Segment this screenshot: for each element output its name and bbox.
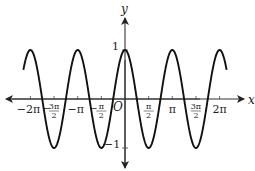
x-tick-label: −π bbox=[67, 103, 83, 116]
x-tick-label-numerator: 3π bbox=[191, 102, 201, 111]
x-tick-label-numerator: 3π bbox=[49, 102, 59, 111]
x-tick-label: π bbox=[169, 103, 176, 116]
x-tick-label-denominator: 2 bbox=[52, 111, 57, 120]
x-tick-label: −2π bbox=[17, 103, 40, 116]
y-tick-label-1: 1 bbox=[112, 40, 119, 53]
origin-label: O bbox=[113, 100, 123, 114]
y-axis-label: y bbox=[120, 2, 128, 16]
x-tick-label: 2π bbox=[212, 103, 226, 116]
x-tick-label-denominator: 2 bbox=[146, 111, 151, 120]
x-tick-label-numerator: π bbox=[99, 102, 104, 111]
x-axis-label: x bbox=[248, 93, 255, 107]
x-tick-label-denominator: 2 bbox=[193, 111, 198, 120]
y-tick-label-neg1: −1 bbox=[104, 138, 120, 151]
x-tick-label-numerator: π bbox=[146, 102, 151, 111]
x-tick-label-denominator: 2 bbox=[99, 111, 104, 120]
cosine-graph: −2π−3π2−π−π2π2π3π22π x y O 1 −1 bbox=[0, 0, 255, 171]
